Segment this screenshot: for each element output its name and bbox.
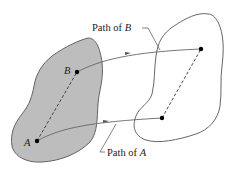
final-body-shape <box>134 14 223 142</box>
point-a-final <box>160 116 164 120</box>
label-point-b: B <box>64 65 71 76</box>
label-path-of-a: Path of A <box>107 147 147 158</box>
label-point-a: A <box>23 137 31 148</box>
rigid-body-translation-diagram: B A Path of B Path of A <box>0 0 238 170</box>
point-b-final <box>199 47 203 51</box>
point-b-initial <box>75 70 79 74</box>
label-path-of-b: Path of B <box>92 22 132 33</box>
leader-path-b <box>142 28 160 50</box>
line-ab-final <box>162 49 201 118</box>
path-of-b-arrow-icon <box>125 52 131 55</box>
point-a-initial <box>35 139 39 143</box>
